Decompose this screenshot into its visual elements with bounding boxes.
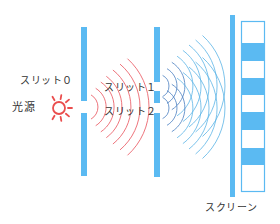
sun-ray (61, 117, 62, 121)
wave-arc (91, 95, 98, 119)
slit1-label: スリット１ (104, 83, 157, 93)
fringe-band (241, 78, 265, 95)
sun-ray (66, 114, 69, 117)
wave-arc (196, 62, 217, 154)
wave-arc (167, 91, 177, 126)
barrier-segment (154, 113, 160, 177)
wave-arc (163, 75, 169, 96)
sun-ray (53, 97, 55, 101)
sun-disc (53, 102, 65, 114)
fringe-band (241, 148, 265, 165)
wave-fronts-from-double-slit (163, 36, 225, 159)
single-slit-barrier (81, 27, 87, 176)
screen-bar (230, 15, 235, 197)
wave-arc (163, 97, 169, 118)
screen-label: スクリーン (205, 203, 258, 213)
barrier-segment (154, 27, 160, 82)
sun-ray (61, 95, 62, 99)
light-source-label: 光源 (12, 102, 35, 113)
barrier-segment (81, 27, 87, 101)
fringe-band (241, 43, 265, 61)
double-slit-barrier (154, 27, 160, 177)
interference-fringe-pattern (241, 22, 265, 192)
fringe-band (241, 112, 265, 130)
double-slit-diagram: スリット０ 光源 スリット１ スリット２ スクリーン (0, 0, 280, 224)
sun-ray (53, 116, 55, 120)
barrier-segment (81, 113, 87, 176)
slit0-label: スリット０ (20, 76, 73, 86)
slit2-label: スリット２ (104, 107, 157, 117)
sun-ray (66, 100, 69, 103)
wave-arc (196, 40, 217, 132)
wave-arc (167, 69, 177, 104)
sun-icon (53, 95, 73, 121)
